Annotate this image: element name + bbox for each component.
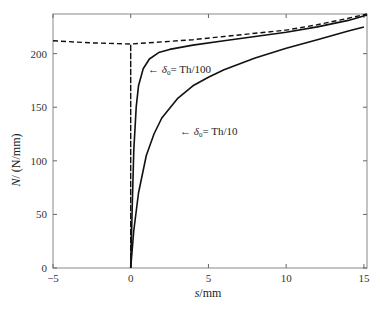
x-tick-label: 15 [358,272,370,284]
data-series [53,14,367,268]
y-tick-label: 200 [31,48,48,60]
axis-ticks: −5051015050100150200 [31,14,370,284]
series-line-1 [131,15,367,268]
x-tick-label: 10 [281,272,293,284]
x-tick-label: 5 [206,272,212,284]
x-axis-label: s/mm [195,286,222,300]
series-line-0 [53,14,367,268]
y-axis-label: N/ (N/mm) [9,133,23,187]
x-tick-label: −5 [47,272,59,284]
plot-border [53,14,367,268]
y-tick-label: 50 [36,208,48,220]
chart: −5051015050100150200 s/mm N/ (N/mm) ← δ0… [0,0,380,310]
y-tick-label: 150 [31,101,48,113]
y-tick-label: 0 [42,262,48,274]
x-tick-label: 0 [128,272,134,284]
plot-frame [53,14,367,268]
annotation-th10: ← δ0= Th/10 [180,125,238,139]
y-tick-label: 100 [31,155,48,167]
annotation-th100: ← δ0= Th/100 [148,63,212,77]
